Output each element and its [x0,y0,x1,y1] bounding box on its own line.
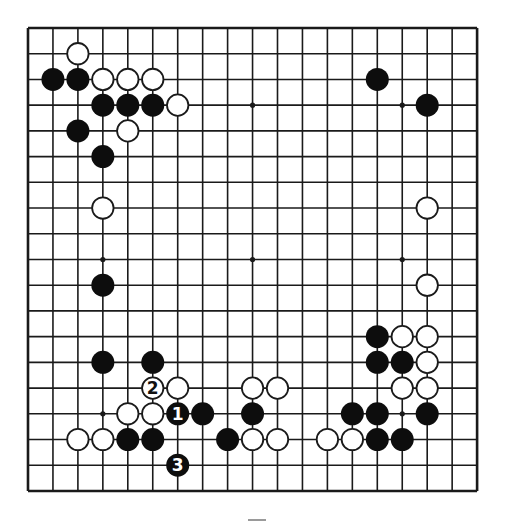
black-stone [141,428,164,451]
black-stone [366,402,389,425]
white-stone [242,429,263,450]
star-point [400,103,405,108]
star-point [400,411,405,416]
white-stone [142,69,163,90]
white-stone [267,377,288,398]
star-point [100,257,105,262]
white-stone [342,429,363,450]
white-stone [67,43,88,64]
white-stone [92,197,113,218]
black-stone [116,428,139,451]
white-stone [117,69,138,90]
white-stone [392,326,413,347]
black-stone [191,402,214,425]
white-stone [417,275,438,296]
star-point [250,103,255,108]
star-point [250,257,255,262]
cropped-caption-mark [248,519,266,521]
white-stone [417,326,438,347]
star-point [100,411,105,416]
white-stone-move-2: 2 [142,377,163,398]
white-stone [167,94,188,115]
black-stone [91,351,114,374]
black-stone [66,68,89,91]
black-stone [41,68,64,91]
black-stone [416,402,439,425]
white-stone [392,377,413,398]
black-stone [141,94,164,117]
black-stone-move-1: 1 [166,402,189,425]
black-stone [216,428,239,451]
black-stone [366,325,389,348]
black-stone [91,94,114,117]
white-stone [117,120,138,141]
black-stone-move-3: 3 [166,454,189,477]
white-stone [67,429,88,450]
white-stone [167,377,188,398]
black-stone [366,351,389,374]
black-stone [141,351,164,374]
black-stone [366,68,389,91]
black-stone [391,351,414,374]
black-stone [341,402,364,425]
star-point [400,257,405,262]
go-board: 213 [0,0,505,525]
black-stone [116,94,139,117]
white-stone [142,403,163,424]
white-stone [317,429,338,450]
move-number-label: 2 [147,378,159,398]
white-stone [92,429,113,450]
black-stone [416,94,439,117]
black-stone [391,428,414,451]
white-stone [267,429,288,450]
white-stone [117,403,138,424]
black-stone [91,274,114,297]
white-stone [417,197,438,218]
go-board-diagram: 213 [0,0,505,525]
white-stone [92,69,113,90]
black-stone [366,428,389,451]
black-stone [66,119,89,142]
move-number-label: 1 [172,404,184,424]
move-number-label: 3 [172,455,184,475]
black-stone [91,145,114,168]
white-stone [242,377,263,398]
black-stone [241,402,264,425]
white-stone [417,377,438,398]
white-stone [417,352,438,373]
